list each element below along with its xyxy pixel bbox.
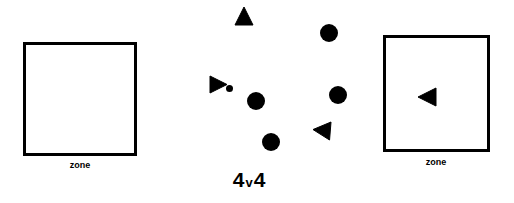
triangle-top-marker (235, 7, 253, 25)
circle-right-marker (329, 86, 347, 104)
matchup-title: 4v4 (189, 169, 309, 190)
matchup-left-count: 4 (233, 168, 245, 191)
ball-icon (226, 85, 233, 92)
triangle-bottom-right-marker (313, 122, 331, 140)
drill-diagram-canvas: zonezone4v4 (0, 0, 514, 203)
circle-bottom-marker (262, 133, 280, 151)
matchup-right-count: 4 (254, 168, 266, 191)
right-zone-box (383, 35, 490, 152)
triangle-left-marker (210, 76, 227, 93)
left-zone-box (23, 42, 137, 156)
triangle-in-right-zone-marker (418, 88, 436, 106)
left-zone-label: zone (40, 161, 120, 170)
circle-upper-right-marker (320, 24, 338, 42)
right-zone-label: zone (396, 158, 476, 167)
matchup-separator: v (244, 175, 253, 190)
circle-center-marker (247, 92, 265, 110)
